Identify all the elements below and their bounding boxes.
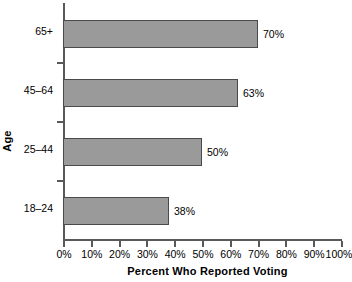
y-tick-label-25-44: 25–44 <box>0 144 53 155</box>
x-tick-mark <box>285 241 287 247</box>
x-tick-label-60: 60% <box>220 249 241 260</box>
x-tick-mark <box>91 241 93 247</box>
bar-45-64 <box>63 79 238 107</box>
x-tick-label-80: 80% <box>276 249 297 260</box>
y-tick-mark <box>57 180 63 182</box>
x-tick-mark <box>313 241 315 247</box>
x-tick-label-90: 90% <box>304 249 325 260</box>
bar-value-25-44: 50% <box>207 147 228 158</box>
x-tick-label-100: 100% <box>326 249 352 260</box>
x-tick-label-0: 0% <box>56 249 71 260</box>
x-tick-label-30: 30% <box>137 249 158 260</box>
y-axis-title: Age <box>0 0 14 282</box>
x-tick-label-50: 50% <box>192 249 213 260</box>
bar-chart: Age 70% 63% 50% 38% 65+ 45–64 25–44 18–2… <box>0 0 352 282</box>
x-tick-mark <box>341 241 343 247</box>
x-axis-title: Percent Who Reported Voting <box>63 263 352 278</box>
x-tick-label-40: 40% <box>165 249 186 260</box>
x-tick-label-20: 20% <box>109 249 130 260</box>
bar-65plus <box>63 20 258 48</box>
y-tick-label-65plus: 65+ <box>0 26 53 37</box>
x-tick-mark <box>230 241 232 247</box>
bar-value-18-24: 38% <box>174 206 195 217</box>
x-tick-mark <box>146 241 148 247</box>
y-tick-mark <box>57 62 63 64</box>
x-tick-label-70: 70% <box>248 249 269 260</box>
x-tick-label-10: 10% <box>81 249 102 260</box>
x-tick-mark <box>119 241 121 247</box>
y-tick-label-18-24: 18–24 <box>0 203 53 214</box>
y-tick-label-45-64: 45–64 <box>0 85 53 96</box>
x-tick-mark <box>202 241 204 247</box>
bar-value-65plus: 70% <box>263 29 284 40</box>
x-tick-mark <box>258 241 260 247</box>
x-tick-mark <box>174 241 176 247</box>
y-tick-mark <box>57 121 63 123</box>
bar-value-45-64: 63% <box>243 88 264 99</box>
bar-18-24 <box>63 197 169 225</box>
plot-area: 70% 63% 50% 38% <box>63 3 341 240</box>
bar-25-44 <box>63 138 202 166</box>
x-tick-mark <box>63 241 65 247</box>
